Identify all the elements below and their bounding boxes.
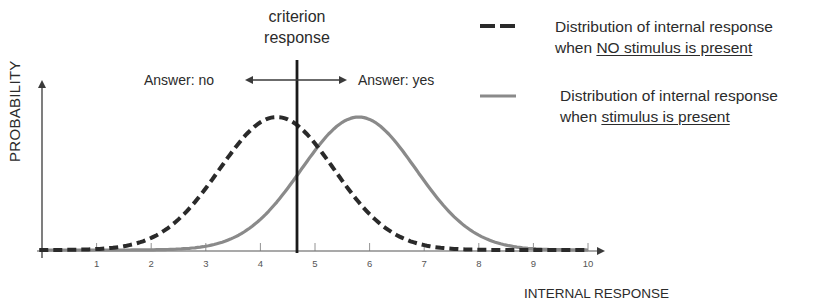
criterion-label-line2: response (256, 27, 338, 48)
legend-prefix: when (560, 108, 601, 125)
no-stimulus-distribution-curve (39, 117, 588, 250)
x-tick-label: 1 (94, 258, 99, 269)
y-axis-label: PROBABILITY (6, 60, 23, 162)
answer-yes-label: Answer: yes (358, 72, 434, 88)
legend-stimulus-line2: when stimulus is present (560, 106, 778, 127)
legend-stimulus-line1: Distribution of internal response (560, 85, 778, 106)
legend-item-stimulus: Distribution of internal response when s… (560, 85, 778, 127)
legend-item-no-stimulus: Distribution of internal response when N… (555, 16, 773, 58)
x-tick-label: 6 (367, 258, 372, 269)
x-tick-label: 2 (149, 258, 154, 269)
x-tick-label: 10 (583, 258, 594, 269)
legend-no-stimulus-line2: when NO stimulus is present (555, 37, 773, 58)
stimulus-present-distribution-curve (39, 117, 588, 250)
x-tick-label: 9 (531, 258, 536, 269)
x-tick-label: 5 (312, 258, 317, 269)
x-tick-label: 3 (203, 258, 208, 269)
legend-underlined-text: NO stimulus is present (596, 39, 752, 56)
legend-underlined-text: stimulus is present (601, 108, 729, 125)
criterion-label-line1: criterion (256, 6, 338, 27)
x-tick-label: 8 (476, 258, 481, 269)
legend-no-stimulus-line1: Distribution of internal response (555, 16, 773, 37)
x-tick-label: 7 (422, 258, 427, 269)
x-axis-label: INTERNAL RESPONSE (524, 286, 669, 301)
x-tick-label: 4 (258, 258, 263, 269)
legend-prefix: when (555, 39, 596, 56)
criterion-response-label: criterion response (256, 6, 338, 48)
answer-no-label: Answer: no (144, 72, 214, 88)
